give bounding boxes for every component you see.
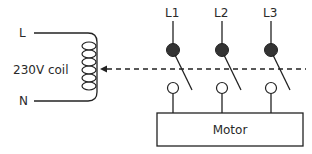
fixed-contact-icon — [265, 44, 278, 57]
fixed-contact-icon — [167, 44, 180, 57]
neutral-label: N — [19, 94, 28, 108]
open-contact-icon — [168, 83, 179, 94]
phase-l3: L3 — [263, 6, 290, 113]
open-contact-icon — [217, 83, 228, 94]
arrow-head-icon — [100, 66, 107, 73]
open-contact-icon — [266, 83, 277, 94]
coil-label: 230V coil — [13, 63, 69, 77]
contactor-diagram: L 230V coil N L1 L2 L3 — [0, 0, 312, 154]
line-label: L — [19, 26, 26, 40]
phase-l1: L1 — [165, 6, 192, 113]
fixed-contact-icon — [216, 44, 229, 57]
phase-label: L2 — [214, 6, 228, 20]
motor-label: Motor — [213, 123, 248, 137]
phase-label: L1 — [165, 6, 179, 20]
coil-icon — [82, 42, 96, 90]
phase-l2: L2 — [214, 6, 241, 113]
phase-label: L3 — [263, 6, 277, 20]
